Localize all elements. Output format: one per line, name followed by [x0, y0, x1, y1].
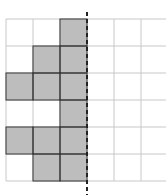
- shaded-cell: [60, 127, 87, 154]
- shaded-cell: [60, 46, 87, 73]
- shaded-cell: [33, 127, 60, 154]
- symmetry-grid: [0, 0, 166, 195]
- shaded-cell: [33, 73, 60, 100]
- shaded-cell: [60, 100, 87, 127]
- shaded-cell: [60, 19, 87, 46]
- shaded-cell: [33, 154, 60, 181]
- shaded-cell: [33, 46, 60, 73]
- shaded-cell: [6, 127, 33, 154]
- shaded-cell: [6, 73, 33, 100]
- shaded-cell: [60, 154, 87, 181]
- shaded-cell: [60, 73, 87, 100]
